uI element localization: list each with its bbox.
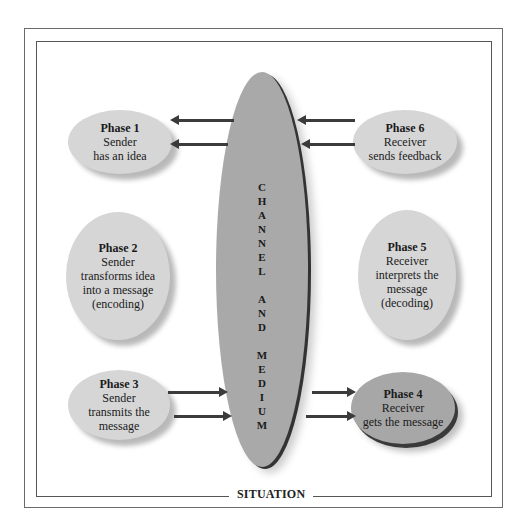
phase-2-title: Phase 2 <box>81 241 155 255</box>
phase-6-desc: Receiver sends feedback <box>369 135 442 163</box>
arrow-left-icon <box>178 119 234 122</box>
phase-1-desc: Sender has an idea <box>93 135 146 163</box>
phase-4-title: Phase 4 <box>363 387 444 401</box>
phase-2-desc: Sender transforms idea into a message (e… <box>81 255 155 311</box>
phase-4-node: Phase 4 Receiver gets the message <box>351 372 455 444</box>
channel-and-medium: C H A N N E L A N D M E D I U M <box>216 72 308 467</box>
arrow-left-icon <box>309 143 355 146</box>
arrow-left-icon <box>305 119 355 122</box>
phase-1-title: Phase 1 <box>93 121 146 135</box>
phase-5-desc: Receiver interprets the message (decodin… <box>376 254 439 310</box>
phase-5-node: Phase 5 Receiver interprets the message … <box>358 210 456 340</box>
phase-2-node: Phase 2 Sender transforms idea into a me… <box>66 212 170 340</box>
phase-1-node: Phase 1 Sender has an idea <box>68 110 172 174</box>
phase-3-node: Phase 3 Sender transmits the message <box>68 370 170 440</box>
phase-6-title: Phase 6 <box>369 121 442 135</box>
arrow-left-icon <box>178 143 228 146</box>
arrow-right-icon <box>312 391 348 394</box>
situation-label: SITUATION <box>229 487 313 502</box>
arrow-right-icon <box>306 415 348 418</box>
phase-3-title: Phase 3 <box>88 377 150 391</box>
arrow-right-icon <box>174 415 224 418</box>
phase-6-node: Phase 6 Receiver sends feedback <box>353 110 457 174</box>
phase-3-desc: Sender transmits the message <box>88 391 150 433</box>
phase-5-title: Phase 5 <box>376 240 439 254</box>
channel-label: C H A N N E L A N D M E D I U M <box>216 180 308 432</box>
phase-4-desc: Receiver gets the message <box>363 401 444 429</box>
arrow-right-icon <box>168 391 220 394</box>
